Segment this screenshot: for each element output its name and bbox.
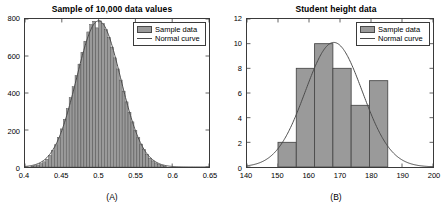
legend-label-sample-data: Sample data [155,25,197,34]
x-tick-label: 140 [240,171,253,180]
figure-root: Sample of 10,000 data values 02004006008… [0,0,448,216]
normal-curve-line-icon [137,35,152,42]
legend-item-sample-data: Sample data [137,25,202,34]
y-tick-label: 2 [224,139,242,148]
y-tick-label: 800 [0,14,20,23]
y-tick-label: 200 [0,126,20,135]
sample-data-swatch-icon [360,26,375,33]
y-tick-label: 8 [224,64,242,73]
legend-item-sample-data: Sample data [360,25,426,34]
x-tick-label: 150 [271,171,284,180]
x-tick-label: 0.65 [203,171,218,180]
panel-a: Sample of 10,000 data values 02004006008… [0,0,224,216]
chart-b-title: Student height data [224,4,448,14]
legend-label-normal-curve: Normal curve [155,34,200,43]
chart-a-title: Sample of 10,000 data values [0,4,224,14]
chart-b-legend: Sample data Normal curve [356,22,430,46]
legend-label-sample-data: Sample data [378,25,420,34]
chart-a-caption: (A) [0,192,224,202]
y-tick-label: 600 [0,51,20,60]
x-tick-label: 180 [365,171,378,180]
normal-curve-line-icon [360,35,375,42]
x-tick-label: 170 [334,171,347,180]
y-tick-label: 0 [0,164,20,173]
y-tick-label: 12 [224,14,242,23]
y-tick-label: 400 [0,89,20,98]
legend-item-normal-curve: Normal curve [360,34,426,43]
x-tick-label: 0.6 [168,171,178,180]
x-tick-label: 200 [428,171,441,180]
sample-data-swatch-icon [137,26,152,33]
x-tick-label: 0.4 [19,171,29,180]
x-tick-label: 190 [396,171,409,180]
x-tick-label: 0.55 [128,171,143,180]
x-tick-label: 0.5 [93,171,103,180]
panel-b: Student height data 024681012 1401501601… [224,0,448,216]
y-tick-label: 10 [224,39,242,48]
y-tick-label: 6 [224,89,242,98]
legend-item-normal-curve: Normal curve [137,34,202,43]
chart-a-legend: Sample data Normal curve [133,22,206,46]
x-tick-label: 160 [302,171,315,180]
x-tick-label: 0.45 [54,171,69,180]
chart-b-caption: (B) [224,192,448,202]
y-tick-label: 4 [224,114,242,123]
legend-label-normal-curve: Normal curve [378,34,423,43]
